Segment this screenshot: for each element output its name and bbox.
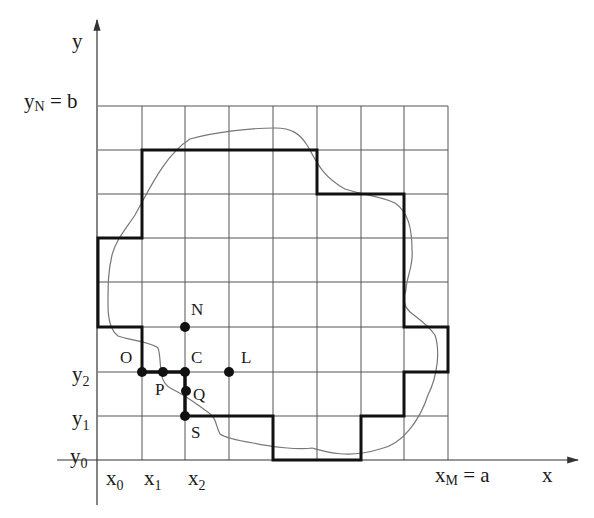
label-q: Q [193,385,205,404]
label-s: S [191,423,200,442]
point-o [137,367,147,377]
grid [98,106,448,460]
point-c [180,367,190,377]
x-end-label: xM = a [435,463,490,488]
point-q [181,386,191,396]
point-n [180,322,190,332]
y-end-label: yN = b [24,89,77,114]
point-l [224,367,234,377]
y2-tick-label: y2 [72,362,90,389]
grid-discretization-diagram: N O P C L Q S y x yN = b xM = a y2 y1 y0… [0,0,594,518]
label-l: L [241,348,251,367]
point-s [180,411,190,421]
x0-tick-label: x0 [106,466,124,493]
label-n: N [191,300,203,319]
y0-tick-label: y0 [70,444,88,471]
label-p: P [155,380,164,399]
y1-tick-label: y1 [72,406,90,433]
x1-tick-label: x1 [144,466,162,493]
y-axis-label: y [72,29,83,53]
x-axis-label: x [542,463,553,487]
point-p [158,367,168,377]
x2-tick-label: x2 [188,466,206,493]
label-o: O [120,348,132,367]
label-c: C [191,348,202,367]
